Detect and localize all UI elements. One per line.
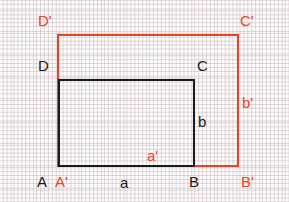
label-A: A [37,174,47,189]
label-C-prime: C' [240,13,254,28]
label-C: C [197,58,208,73]
label-D: D [38,58,49,73]
label-B: B [189,174,199,189]
label-side-b-prime: b' [242,95,253,110]
label-B-prime: B' [241,174,254,189]
label-A-prime: A' [55,174,68,189]
label-side-a-prime: a' [147,148,158,163]
label-side-b: b [198,114,206,129]
label-D-prime: D' [38,13,52,28]
label-side-a: a [120,175,128,190]
inner-rectangle [58,79,195,167]
geometry-diagram: D'C'DCAA'BB'aa'bb' [0,0,289,202]
